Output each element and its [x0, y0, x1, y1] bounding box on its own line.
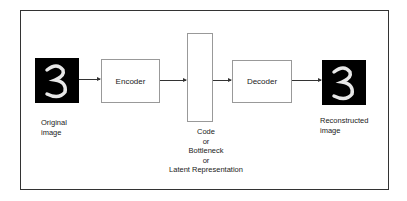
label-line: or	[150, 156, 262, 166]
digit-three-icon	[35, 58, 79, 103]
decoder-label: Decoder	[247, 77, 277, 86]
arrow-input-to-encoder	[79, 79, 100, 80]
code-label: Code or Bottleneck or Latent Representat…	[150, 127, 262, 175]
arrow-code-to-decoder	[213, 80, 231, 81]
reconstructed-image-label: Reconstructed image	[320, 116, 368, 136]
label-line: or	[150, 137, 262, 147]
arrow-decoder-to-output	[292, 80, 321, 81]
decoder-box: Decoder	[232, 60, 292, 103]
label-line: Bottleneck	[150, 146, 262, 156]
label-line: image	[41, 128, 67, 138]
arrow-encoder-to-code	[160, 80, 186, 81]
encoder-label: Encoder	[116, 77, 146, 86]
label-line: Latent Representation	[150, 165, 262, 175]
digit-three-icon	[322, 60, 366, 105]
code-box	[187, 33, 213, 122]
original-image	[35, 58, 79, 103]
label-line: Original	[41, 118, 67, 128]
label-line: Reconstructed	[320, 116, 368, 126]
reconstructed-image	[322, 60, 366, 105]
label-line: image	[320, 126, 368, 136]
original-image-label: Original image	[41, 118, 67, 138]
label-line: Code	[150, 127, 262, 137]
encoder-box: Encoder	[101, 59, 160, 103]
